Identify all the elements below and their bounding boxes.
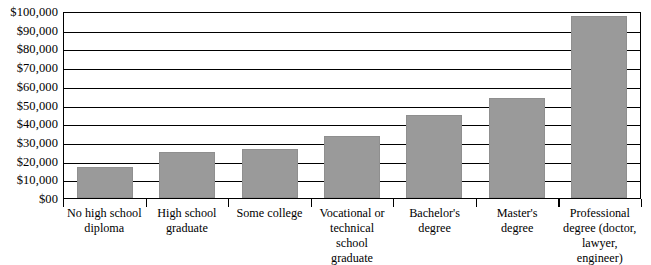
bars-container — [64, 13, 640, 198]
x-axis-label-line: Bachelor's — [395, 206, 474, 221]
y-tick-label: $40,000 — [0, 118, 58, 131]
x-axis-label-line: Vocational or — [313, 206, 392, 221]
bar[interactable] — [242, 149, 298, 198]
y-tick-label: $30,000 — [0, 137, 58, 150]
x-axis-label-line: graduate — [148, 221, 227, 236]
y-axis: $00$10,000$20,000$30,000$40,000$50,000$6… — [0, 0, 58, 265]
bar-slot — [311, 13, 393, 198]
bar-slot — [475, 13, 557, 198]
tick-mark — [641, 199, 642, 207]
x-axis-label-line: graduate — [313, 251, 392, 265]
x-axis-label-line: degree — [478, 221, 557, 236]
x-axis-label: High schoolgraduate — [146, 206, 229, 264]
y-tick-label: $60,000 — [0, 81, 58, 94]
x-axis-label-line: Professional — [560, 206, 639, 221]
bar[interactable] — [406, 115, 462, 198]
bar[interactable] — [159, 152, 215, 198]
bar-slot — [64, 13, 146, 198]
bar-slot — [558, 13, 640, 198]
bar[interactable] — [324, 136, 380, 198]
bar-slot — [146, 13, 228, 198]
x-axis-label-line: diploma — [65, 221, 144, 236]
x-axis-label-line: No high school — [65, 206, 144, 221]
bar[interactable] — [489, 98, 545, 198]
y-tick-label: $50,000 — [0, 100, 58, 113]
x-axis-label: Some college — [228, 206, 311, 264]
x-axis-label-line: High school — [148, 206, 227, 221]
bar[interactable] — [77, 167, 133, 198]
y-tick-label: $100,000 — [0, 6, 58, 19]
y-tick-label: $10,000 — [0, 174, 58, 187]
x-axis-label: Bachelor'sdegree — [393, 206, 476, 264]
y-tick-label: $20,000 — [0, 156, 58, 169]
x-axis-label-line: degree — [395, 221, 474, 236]
y-tick-label: $80,000 — [0, 43, 58, 56]
bar-slot — [229, 13, 311, 198]
x-axis-label: No high schooldiploma — [63, 206, 146, 264]
x-axis-labels: No high schooldiplomaHigh schoolgraduate… — [63, 206, 641, 264]
y-tick-label: $70,000 — [0, 62, 58, 75]
x-axis-label: Master'sdegree — [476, 206, 559, 264]
plot-area — [63, 12, 641, 199]
bar-slot — [393, 13, 475, 198]
x-axis-label-line: degree (doctor, — [560, 221, 639, 236]
x-axis-label-line: technical school — [313, 221, 392, 251]
x-axis-label-line: Some college — [230, 206, 309, 221]
bar-chart: $00$10,000$20,000$30,000$40,000$50,000$6… — [0, 0, 651, 265]
x-axis-label: Professionaldegree (doctor,lawyer, engin… — [558, 206, 641, 264]
x-axis-label-line: Master's — [478, 206, 557, 221]
x-axis-label-line: lawyer, engineer) — [560, 236, 639, 265]
x-axis-label: Vocational ortechnical schoolgraduate — [311, 206, 394, 264]
y-tick-label: $00 — [0, 193, 58, 206]
bar[interactable] — [571, 16, 627, 198]
y-tick-label: $90,000 — [0, 25, 58, 38]
